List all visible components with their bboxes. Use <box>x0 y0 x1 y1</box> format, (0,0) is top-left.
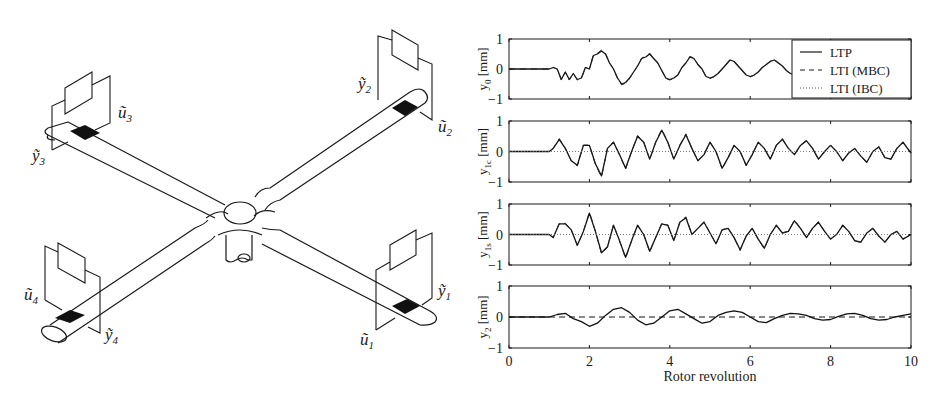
actuator-patch-3 <box>70 125 100 140</box>
legend-entry-lti-mbc: LTI (MBC) <box>830 63 890 78</box>
x-tick-10: 10 <box>904 354 918 369</box>
controller-loop-3 <box>52 72 110 150</box>
x-axis-label: Rotor revolution <box>664 369 757 384</box>
rotor-diagram: ũ3 ỹ3 ỹ2 ũ2 ũ4 ỹ4 ũ1 ỹ1 <box>0 0 470 396</box>
y-axis-label: y1c [mm] <box>475 128 493 175</box>
label-u1: ũ1 <box>360 330 374 351</box>
rotor-hub <box>206 202 275 262</box>
y-tick-label: 0 <box>496 145 503 160</box>
y-axis-label: y2 [mm] <box>475 295 493 338</box>
x-tick-8: 8 <box>827 354 834 369</box>
time-response-charts: 10−1y0 [mm]10−1y1c [mm]10−1y1s [mm]10−1y… <box>460 0 936 396</box>
y-tick-label: 0 <box>496 228 503 243</box>
label-y3: ỹ3 <box>30 146 46 167</box>
blade-4 <box>39 220 215 345</box>
y-axis-label: y1s [mm] <box>475 211 493 258</box>
actuator-patch-2 <box>392 100 418 116</box>
y-tick-label: −1 <box>488 341 503 356</box>
actuator-patch-4 <box>55 310 85 323</box>
controller-loop-1 <box>376 230 432 330</box>
label-y1: ỹ1 <box>436 281 451 302</box>
actuator-patches <box>55 100 420 323</box>
label-u2: ũ2 <box>438 117 453 138</box>
y-tick-label: 1 <box>496 114 503 129</box>
y-tick-label: 0 <box>496 310 503 325</box>
series-lti-mbc <box>509 212 911 258</box>
series-lti-mbc <box>509 129 911 177</box>
x-tick-4: 4 <box>666 354 673 369</box>
y-tick-label: 0 <box>496 62 503 77</box>
actuator-patch-1 <box>392 299 420 314</box>
y-tick-label: −1 <box>488 92 503 107</box>
legend: LTP LTI (MBC) LTI (IBC) <box>792 40 911 98</box>
y-tick-label: 1 <box>496 197 503 212</box>
blade-3 <box>45 122 225 218</box>
x-tick-6: 6 <box>747 354 754 369</box>
series-ltp <box>509 130 911 176</box>
chart-panel-y2: 10−1y2 [mm] <box>475 279 911 356</box>
x-tick-2: 2 <box>586 354 593 369</box>
y-tick-label: 1 <box>496 279 503 294</box>
chart-panel-y1s: 10−1y1s [mm] <box>475 197 911 273</box>
label-u3: ũ3 <box>118 103 133 124</box>
label-u4: ũ4 <box>24 285 39 306</box>
x-tick-0: 0 <box>506 354 513 369</box>
chart-panel-y1c: 10−1y1c [mm] <box>475 114 911 190</box>
label-y2: ỹ2 <box>356 74 372 95</box>
y-tick-label: −1 <box>488 258 503 273</box>
y-tick-label: 1 <box>496 32 503 47</box>
x-axis: 0 2 4 6 8 10 Rotor revolution <box>506 354 919 384</box>
y-axis-label: y0 [mm] <box>475 47 493 90</box>
label-y4: ỹ4 <box>103 325 119 346</box>
legend-entry-lti-ibc: LTI (IBC) <box>830 81 883 96</box>
y-tick-label: −1 <box>488 175 503 190</box>
legend-entry-ltp: LTP <box>830 45 852 60</box>
